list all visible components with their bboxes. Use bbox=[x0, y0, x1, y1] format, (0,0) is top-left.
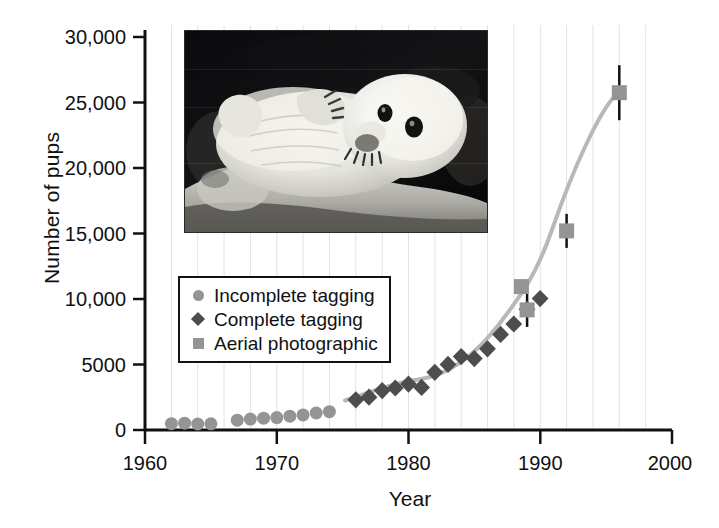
y-tick-0: 0 bbox=[16, 419, 126, 442]
legend-label-complete-tagging: Complete tagging bbox=[214, 310, 363, 329]
harp-seal-pup-photo bbox=[185, 31, 487, 232]
y-tick-30000: 30,000 bbox=[16, 26, 126, 49]
legend-item-complete-tagging: Complete tagging bbox=[189, 307, 378, 331]
y-tick-5000: 5000 bbox=[16, 353, 126, 376]
y-tick-25000: 25,000 bbox=[16, 91, 126, 114]
y-axis-ticks bbox=[133, 37, 145, 430]
circle-marker-icon bbox=[189, 290, 207, 301]
x-axis-title: Year bbox=[145, 487, 675, 511]
y-tick-20000: 20,000 bbox=[16, 157, 126, 180]
series-aerial-photographic bbox=[514, 85, 627, 317]
x-tick-1980: 1980 bbox=[386, 452, 431, 475]
x-tick-1990: 1990 bbox=[518, 452, 563, 475]
x-tick-1970: 1970 bbox=[255, 452, 300, 475]
figure-root: 30,000 25,000 20,000 15,000 10,000 5000 … bbox=[0, 0, 719, 528]
legend-item-incomplete-tagging: Incomplete tagging bbox=[189, 283, 378, 307]
legend: Incomplete tagging Complete tagging Aeri… bbox=[178, 276, 391, 363]
y-axis-tick-labels: 30,000 25,000 20,000 15,000 10,000 5000 … bbox=[14, 0, 126, 528]
legend-label-aerial-photographic: Aerial photographic bbox=[214, 334, 378, 353]
error-bars bbox=[527, 65, 619, 327]
legend-label-incomplete-tagging: Incomplete tagging bbox=[214, 286, 375, 305]
x-axis-ticks bbox=[145, 430, 672, 444]
y-tick-15000: 15,000 bbox=[16, 222, 126, 245]
legend-item-aerial-photographic: Aerial photographic bbox=[189, 331, 378, 355]
square-marker-icon bbox=[189, 338, 207, 349]
x-tick-1960: 1960 bbox=[123, 452, 168, 475]
y-axis-title: Number of pups bbox=[40, 68, 64, 348]
x-tick-2000: 2000 bbox=[648, 452, 693, 475]
y-tick-10000: 10,000 bbox=[16, 288, 126, 311]
diamond-marker-icon bbox=[189, 314, 207, 324]
